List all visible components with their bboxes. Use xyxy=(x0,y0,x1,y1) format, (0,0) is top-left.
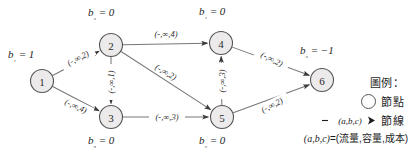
edge-2-to-4 xyxy=(123,43,208,45)
node-2[interactable]: 2 xyxy=(100,34,123,57)
svg-text:(a,b,c): (a,b,c) xyxy=(338,115,362,125)
edge-label-3-to-5: (-,∞,3) xyxy=(155,112,178,122)
legend-formula-prefix: (a,b,c) xyxy=(304,133,330,144)
supply-label-node-1: b₁ = 1 xyxy=(8,48,34,63)
edge-label-2-to-4: (-,∞,4) xyxy=(154,29,177,39)
node-label-2: 2 xyxy=(108,40,114,52)
edge-label-1-to-3: (-,∞,4) xyxy=(63,97,88,116)
edge-label-1-to-2: (-,∞,2) xyxy=(65,48,90,67)
edge-label-2-to-3: (-,∞,1) xyxy=(106,70,116,93)
legend-node-label: 節點 xyxy=(381,93,404,109)
legend-formula-eq: =( xyxy=(330,133,339,144)
edge-2-to-5 xyxy=(121,52,211,110)
supply-label-node-2: b₂ = 0 xyxy=(88,6,114,21)
legend-title: 圖例： xyxy=(300,74,408,90)
node-circle-icon xyxy=(361,94,376,109)
legend-formula: (a,b,c)=(流量,容量,成本) xyxy=(248,130,408,145)
node-label-4: 4 xyxy=(218,38,224,50)
legend: 圖例： 節點 (a,b,c) 節線 (a,b,c)=(流量,容量,成本) xyxy=(300,74,408,128)
edge-label-5-to-4: (-,∞,3) xyxy=(217,69,227,92)
node-4[interactable]: 4 xyxy=(210,32,233,55)
supply-label-node-3: b₃ = 0 xyxy=(88,134,114,149)
node-label-5: 5 xyxy=(219,112,225,124)
supply-label-node-6: b₆ = −1 xyxy=(300,44,334,59)
supply-label-node-4: b₄ = 0 xyxy=(199,5,225,20)
supply-label-node-5: b₅ = 0 xyxy=(199,134,225,149)
legend-row-node: 節點 xyxy=(300,93,408,109)
node-label-1: 1 xyxy=(39,76,45,88)
edge-labels-layer: (-,∞,2)(-,∞,4)(-,∞,4)(-,∞,1)(-,∞,2)(-,∞,… xyxy=(57,29,290,123)
legend-formula-terms: 流量,容量,成本) xyxy=(339,133,408,144)
edge-label-4-to-6: (-,∞,2) xyxy=(259,49,284,68)
node-3[interactable]: 3 xyxy=(100,106,123,129)
network-flow-figure: 123456 (-,∞,2)(-,∞,4)(-,∞,4)(-,∞,1)(-,∞,… xyxy=(0,0,408,156)
node-1[interactable]: 1 xyxy=(31,70,54,93)
legend-arc-label: 節線 xyxy=(381,112,404,128)
arc-arrow-icon: (a,b,c) xyxy=(322,115,376,126)
edge-label-2-to-5: (-,∞,2) xyxy=(154,62,179,82)
node-label-3: 3 xyxy=(108,112,114,124)
node-5[interactable]: 5 xyxy=(211,106,234,129)
legend-row-arc: (a,b,c) 節線 xyxy=(300,112,408,128)
